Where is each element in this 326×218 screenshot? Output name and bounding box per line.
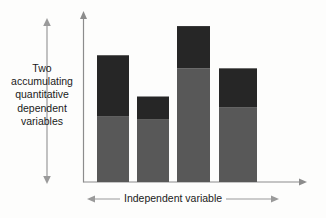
bar-3-lower-segment [177,68,210,182]
y-range-arrow-head-up [43,18,51,26]
bar-4-lower-segment [219,108,257,182]
x-range-arrow-head-right [271,195,279,202]
bar-3-upper-segment [177,26,210,68]
bar-2-upper-segment [137,97,169,120]
bar-2-lower-segment [137,120,169,182]
bar-group-1 [97,55,129,182]
x-axis-arrowhead [299,179,307,186]
y-axis-label: Two accumulating quantitative dependent … [8,62,76,128]
chart-container: Two accumulating quantitative dependent … [0,0,326,218]
bar-1-lower-segment [97,117,129,182]
y-axis [80,11,87,183]
x-range-arrow-head-left [87,195,95,202]
bar-4-upper-segment [219,68,257,107]
y-axis-arrowhead [80,11,87,19]
x-axis-label: Independent variable [120,192,226,205]
y-range-arrow-head-down [43,176,51,184]
bar-group-2 [137,97,169,183]
bar-1-upper-segment [97,55,129,116]
bar-group-4 [219,68,257,182]
bar-group-3 [177,26,210,182]
